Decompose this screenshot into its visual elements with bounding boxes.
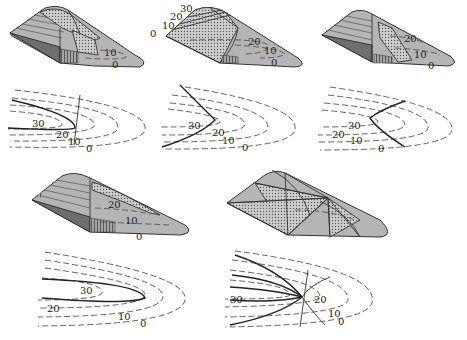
contour-map-b: 30 20 10 0 — [150, 85, 310, 170]
surface-label: 10 — [125, 215, 138, 226]
surface-label: 10 — [104, 47, 117, 58]
contour-map-e: 30 20 10 0 — [220, 245, 440, 340]
contour-label: 10 — [350, 135, 363, 146]
cone-surface-c: 20 10 0 — [300, 0, 467, 90]
panel-b-surface: 0 10 20 30 20 10 0 — [150, 0, 310, 90]
panel-d-surface: 20 10 0 — [0, 170, 200, 255]
contour-label: 20 — [314, 294, 327, 305]
surface-label: 20 — [108, 199, 121, 210]
contour-map-c: 30 20 10 0 — [300, 85, 467, 170]
contour-label: 10 — [118, 311, 131, 322]
contour-label: 10 — [68, 136, 81, 147]
contour-label: 30 — [348, 120, 361, 131]
surface-label: 0 — [136, 231, 142, 242]
contour-label: 20 — [332, 129, 345, 140]
contour-label: 30 — [230, 294, 243, 305]
surface-label: 20 — [404, 33, 417, 44]
contour-label: 30 — [80, 285, 93, 296]
contour-label: 20 — [47, 303, 60, 314]
contour-label: 20 — [56, 129, 69, 140]
cone-surface-e — [220, 165, 440, 255]
cone-surface-b: 0 10 20 30 20 10 0 — [150, 0, 310, 90]
panel-e-surface — [220, 165, 440, 255]
contour-label: 0 — [338, 316, 344, 327]
panel-c-contours: 30 20 10 0 — [300, 85, 467, 170]
panel-a-surface: 10 0 — [0, 0, 160, 90]
contour-map-d: 30 20 10 0 — [0, 250, 200, 340]
surface-label: 0 — [112, 59, 118, 70]
surface-label: 0 — [428, 60, 434, 71]
panel-c-surface: 20 10 0 — [300, 0, 467, 90]
contour-label: 30 — [32, 118, 45, 129]
surface-label: 10 — [264, 45, 277, 56]
cone-surface-a: 10 0 — [0, 0, 160, 90]
surface-label: 30 — [180, 3, 193, 14]
contour-label: 0 — [140, 318, 146, 329]
surface-label: 0 — [271, 57, 277, 68]
panel-a-contours: 30 20 10 0 — [0, 85, 160, 170]
panel-d-contours: 30 20 10 0 — [0, 250, 200, 340]
contour-label: 10 — [222, 135, 235, 146]
surface-label: 20 — [248, 36, 261, 47]
contour-map-a: 30 20 10 0 — [0, 85, 160, 170]
panel-b-contours: 30 20 10 0 — [150, 85, 310, 170]
surface-label: 10 — [414, 49, 427, 60]
surface-label: 0 — [150, 28, 156, 39]
panel-e-contours: 30 20 10 0 — [220, 245, 440, 340]
contour-label: 0 — [378, 143, 384, 154]
contour-label: 0 — [242, 142, 248, 153]
contour-label: 30 — [188, 120, 201, 131]
contour-label: 0 — [86, 143, 92, 154]
cone-surface-d: 20 10 0 — [0, 170, 200, 255]
